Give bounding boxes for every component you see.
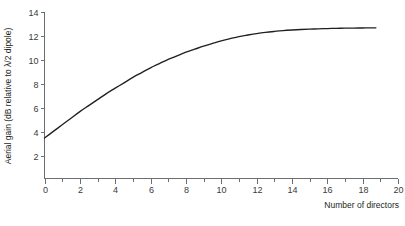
x-tick-label: 18 xyxy=(358,185,368,195)
y-tick-label: 4 xyxy=(33,128,38,138)
y-tick-label: 10 xyxy=(28,56,38,66)
y-tick-label: 12 xyxy=(28,32,38,42)
x-tick-label: 20 xyxy=(393,185,403,195)
y-axis-title: Aerial gain (dB relative to λ/2 dipole) xyxy=(3,28,13,165)
x-tick-label: 6 xyxy=(149,185,154,195)
x-tick-label: 10 xyxy=(216,185,226,195)
chart-background xyxy=(0,0,405,226)
x-tick-label: 4 xyxy=(113,185,118,195)
x-tick-label: 16 xyxy=(322,185,332,195)
x-axis-title: Number of directors xyxy=(324,200,399,210)
x-tick-label: 12 xyxy=(252,185,262,195)
x-tick-label: 8 xyxy=(184,185,189,195)
y-tick-label: 14 xyxy=(28,8,38,18)
x-tick-label: 2 xyxy=(78,185,83,195)
y-tick-label: 2 xyxy=(33,152,38,162)
aerial-gain-chart: 2468101214 02468101214161820 Aerial gain… xyxy=(0,0,405,226)
y-tick-label: 6 xyxy=(33,104,38,114)
x-tick-label: 14 xyxy=(287,185,297,195)
y-tick-label: 8 xyxy=(33,80,38,90)
x-tick-label: 0 xyxy=(43,185,48,195)
